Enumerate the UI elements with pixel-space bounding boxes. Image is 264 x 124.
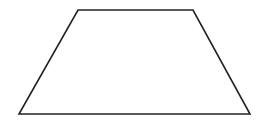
diagram-canvas xyxy=(0,0,264,124)
trapezoid-shape xyxy=(19,10,250,114)
